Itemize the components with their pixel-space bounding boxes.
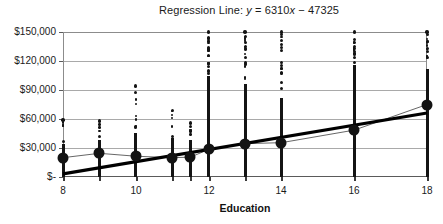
y-tick-label: $30,000 [0,142,56,153]
x-tick-mark [427,177,429,181]
mean-marker [203,144,214,155]
regression-scatter-chart: Regression Line: y = 6310x − 47325 $-$30… [0,0,443,224]
x-tick-label: 12 [203,185,214,196]
x-tick-label: 16 [348,185,359,196]
y-tick-label: $150,000 [0,26,56,37]
x-tick-mark [354,177,356,181]
x-tick-label: 18 [421,185,432,196]
mean-marker [58,152,69,163]
x-tick-label: 10 [130,185,141,196]
plot-area [63,32,427,177]
x-tick-label: 8 [60,185,66,196]
mean-marker [240,138,251,149]
x-tick-mark [245,177,247,181]
mean-marker [94,148,105,159]
mean-marker [167,152,178,163]
mean-marker [130,151,141,162]
mean-marker [349,125,360,136]
mean-marker [185,152,196,163]
x-tick-mark [172,177,174,181]
x-tick-label: 14 [275,185,286,196]
x-tick-mark [190,177,192,181]
y-tick-label: $60,000 [0,113,56,124]
y-tick-label: $90,000 [0,84,56,95]
mean-marker [276,137,287,148]
regression-line [63,32,427,177]
chart-title-prefix: Regression Line: [159,4,246,16]
y-tick-label: $- [0,171,56,182]
y-tick-label: $120,000 [0,55,56,66]
x-tick-mark [99,177,101,181]
chart-title-suffix: − 47325 [295,4,339,16]
x-tick-mark [209,177,211,181]
x-tick-mark [63,177,65,181]
chart-title: Regression Line: y = 6310x − 47325 [0,4,443,16]
x-tick-mark [281,177,283,181]
chart-title-equals: = 6310 [252,4,290,16]
mean-marker [422,99,433,110]
x-tick-mark [136,177,138,181]
x-axis-title: Education [63,202,427,214]
